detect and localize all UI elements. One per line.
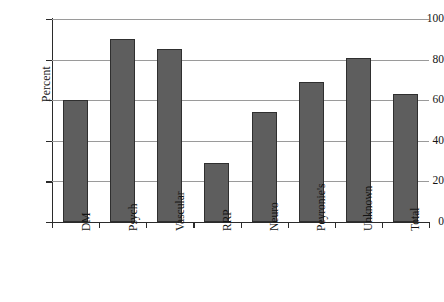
bar-dm bbox=[63, 100, 88, 222]
bar-total bbox=[393, 94, 418, 222]
x-tick-mark-7 bbox=[382, 222, 383, 228]
x-tick-mark-0 bbox=[52, 222, 53, 228]
x-tick-mark-8 bbox=[429, 222, 430, 228]
x-tick-mark-3 bbox=[193, 222, 194, 228]
x-axis-label-unknown: Unknown bbox=[363, 186, 375, 231]
x-axis-label-total: Total bbox=[410, 208, 422, 231]
x-tick-mark-2 bbox=[146, 222, 147, 228]
bar-chart: Percent 020406080100 DMPsychVascularRRPN… bbox=[0, 0, 444, 302]
x-axis-label-neuro: Neuro bbox=[269, 202, 281, 231]
bar-psych bbox=[110, 39, 135, 222]
x-axis-label-vascular: Vascular bbox=[175, 191, 187, 231]
x-tick-mark-5 bbox=[288, 222, 289, 228]
x-axis-label-psych: Psych bbox=[128, 204, 140, 231]
x-axis-label-dm: DM bbox=[81, 212, 93, 231]
x-tick-mark-6 bbox=[335, 222, 336, 228]
y-axis-title: Percent bbox=[40, 44, 52, 124]
x-tick-mark-4 bbox=[241, 222, 242, 228]
x-axis-label-rrp: RRP bbox=[222, 209, 234, 231]
x-tick-mark-1 bbox=[99, 222, 100, 228]
x-axis-label-peyronie-s: Peyronie's bbox=[316, 184, 328, 231]
